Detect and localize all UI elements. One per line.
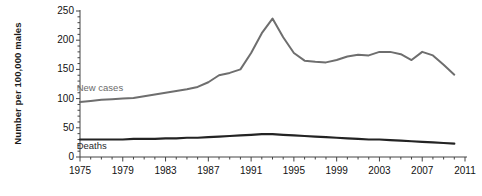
series-line-deaths: [80, 134, 454, 143]
plot-area: [0, 0, 482, 196]
series-line-new-cases: [80, 19, 454, 103]
series-label-deaths: Deaths: [77, 141, 107, 151]
line-chart: Number per 100,000 males 050100150200250…: [0, 0, 482, 196]
series-label-new-cases: New cases: [77, 83, 123, 93]
